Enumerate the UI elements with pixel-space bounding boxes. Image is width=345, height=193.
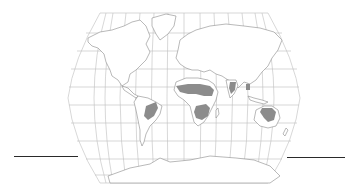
world-map [0,0,345,193]
madagascar [216,108,219,118]
indonesia [248,96,268,104]
africa-southern [194,104,210,120]
southeast-asia-savanna [246,84,250,90]
greenland [152,14,176,40]
antarctica [108,156,280,183]
continents [88,14,288,183]
south-america [134,96,162,146]
left-rule [14,156,78,157]
map-canvas [0,0,345,193]
right-rule [287,157,345,158]
new-zealand [283,128,288,136]
